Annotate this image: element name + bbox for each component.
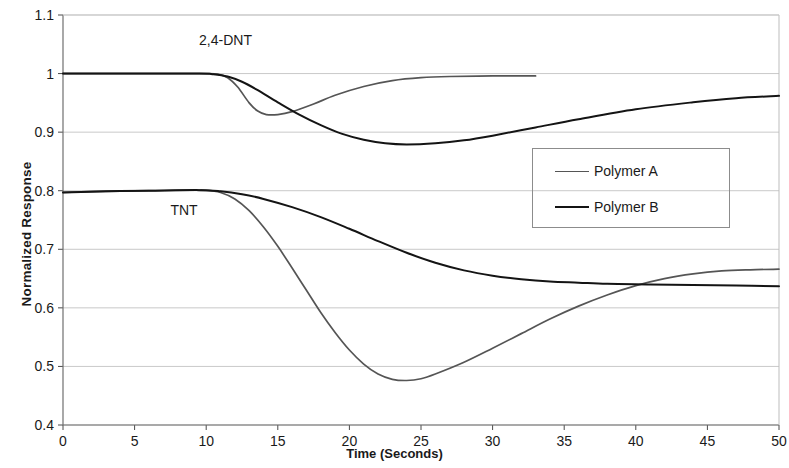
- legend-swatch-polymer-b: [555, 206, 589, 208]
- analyte-annotation: 2,4-DNT: [199, 32, 252, 48]
- legend-label-polymer-b: Polymer B: [594, 199, 659, 215]
- y-axis-title: Normalized Response: [19, 134, 34, 334]
- analyte-annotation: TNT: [170, 202, 197, 218]
- legend-item-polymer-b: Polymer B: [555, 197, 659, 217]
- x-axis-title: Time (Seconds): [0, 446, 789, 461]
- y-axis-tick-label: 0.4: [10, 417, 54, 433]
- chart-legend: Polymer A Polymer B: [532, 148, 730, 228]
- y-axis-tick-label: 1: [10, 66, 54, 82]
- legend-swatch-polymer-a: [555, 171, 589, 172]
- legend-label-polymer-a: Polymer A: [594, 163, 658, 179]
- data-series-line: [63, 74, 536, 115]
- chart-plot-area: [0, 0, 789, 468]
- legend-item-polymer-a: Polymer A: [555, 161, 658, 181]
- y-axis-tick-label: 0.5: [10, 358, 54, 374]
- chart-figure: 0.40.50.60.70.80.911.1 05101520253035404…: [0, 0, 789, 468]
- data-series-line: [63, 74, 779, 145]
- y-axis-tick-label: 1.1: [10, 7, 54, 23]
